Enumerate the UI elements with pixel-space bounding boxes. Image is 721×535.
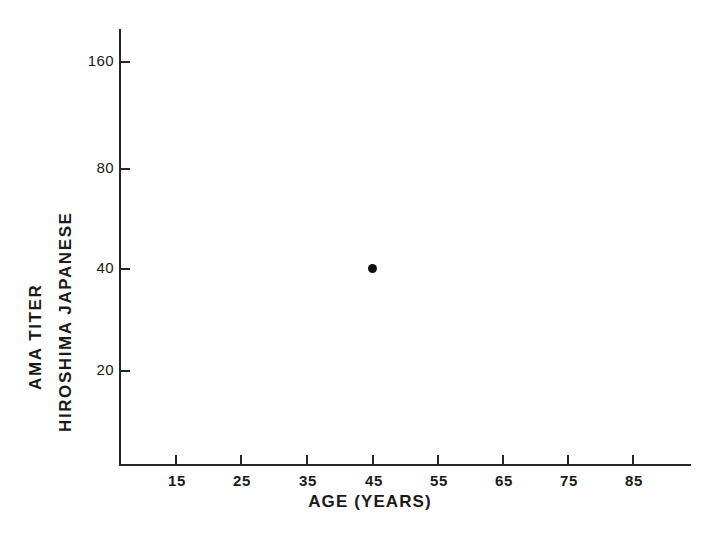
y-axis-tick-label: 160 <box>70 53 114 69</box>
x-axis-tick-label: 25 <box>220 473 264 488</box>
y-axis-tick-label-text: 160 <box>74 53 114 68</box>
y-axis-tick-label: 20 <box>70 362 114 378</box>
x-axis-title: AGE (YEARS) <box>220 492 520 512</box>
y-axis-title-outer: AMA TITER <box>26 284 46 390</box>
x-axis-tick-label: 65 <box>482 473 526 488</box>
x-axis-tick-label: 55 <box>417 473 461 488</box>
y-axis-tick-label-text: 80 <box>74 160 114 175</box>
data-point <box>368 264 377 273</box>
x-axis-tick-label: 85 <box>612 473 656 488</box>
plot-area <box>119 29 691 465</box>
x-axis-tick-label: 35 <box>286 473 330 488</box>
y-axis-tick-label: 40 <box>70 260 114 276</box>
x-axis-tick-label: 15 <box>155 473 199 488</box>
y-axis-tick-label-text: 20 <box>74 362 114 377</box>
y-axis-tick-label: 80 <box>70 160 114 176</box>
x-axis-tick-label: 45 <box>352 473 396 488</box>
y-axis-title-inner: HIROSHIMA JAPANESE <box>56 211 76 432</box>
x-axis-tick-label: 75 <box>547 473 591 488</box>
y-axis-tick-label-text: 40 <box>74 260 114 275</box>
chart-figure: 160 80 40 20 15 25 35 45 55 65 75 85 AMA… <box>0 0 721 535</box>
